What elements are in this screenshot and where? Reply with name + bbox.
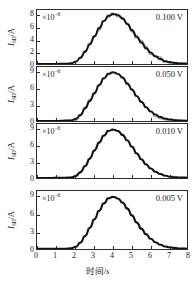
y-tick-label: 3 xyxy=(30,101,34,109)
y-tick-label: 6 xyxy=(30,210,34,218)
axis-multiplier-label: ×10−6 xyxy=(42,192,60,203)
chart-panel-2: ISD/A0369×10−60.050 V xyxy=(0,57,195,122)
axis-multiplier-label: ×10−6 xyxy=(42,68,60,79)
y-tick-label: 3 xyxy=(30,228,34,236)
plot-area-4: ×10−60.005 V xyxy=(36,190,188,250)
y-tick-label: 6 xyxy=(30,84,34,92)
x-tick-label: 3 xyxy=(91,252,95,260)
x-tick-label: 6 xyxy=(148,252,152,260)
x-tick-label: 2 xyxy=(72,252,76,260)
x-tick-label: 4 xyxy=(110,252,114,260)
y-axis-label: ISD/A xyxy=(6,28,16,46)
y-tick-label: 2 xyxy=(30,48,34,56)
x-tick-label: 1 xyxy=(53,252,57,260)
y-tick-labels: 0369 xyxy=(16,181,36,250)
y-tick-label: 8 xyxy=(30,10,34,18)
x-axis-unit: s xyxy=(106,266,109,276)
fitted-curve xyxy=(37,129,187,177)
y-tick-labels: 0369 xyxy=(16,57,36,122)
axis-multiplier-label: ×10−6 xyxy=(42,125,60,136)
y-tick-labels: 02468 xyxy=(16,0,36,65)
x-tick-label: 0 xyxy=(34,252,38,260)
x-axis: 012345678时间/s xyxy=(0,252,195,283)
y-tick-label: 3 xyxy=(30,158,34,166)
figure-root: ISD/A02468×10−60.100 VISD/A0369×10−60.05… xyxy=(0,0,195,283)
x-tick-label: 8 xyxy=(186,252,190,260)
y-tick-label: 4 xyxy=(30,36,34,44)
voltage-annotation: 0.005 V xyxy=(156,193,183,203)
y-axis-label: ISD/A xyxy=(6,142,16,160)
chart-panel-1: ISD/A02468×10−60.100 V xyxy=(0,0,195,65)
y-tick-label: 6 xyxy=(30,23,34,31)
fitted-curve xyxy=(37,197,187,249)
voltage-annotation: 0.050 V xyxy=(156,69,183,79)
x-axis-title-text: 时间 xyxy=(86,266,104,276)
y-tick-label: 6 xyxy=(30,141,34,149)
y-tick-label: 9 xyxy=(30,191,34,199)
y-axis-label: ISD/A xyxy=(6,85,16,103)
chart-panel-4: ISD/A0369×10−60.005 V xyxy=(0,181,195,250)
x-tick-label: 7 xyxy=(167,252,171,260)
y-axis-label: ISD/A xyxy=(6,211,16,229)
x-tick-label: 5 xyxy=(129,252,133,260)
voltage-annotation: 0.010 V xyxy=(156,126,183,136)
y-tick-label: 9 xyxy=(30,124,34,132)
voltage-annotation: 0.100 V xyxy=(156,12,183,22)
chart-panel-3: ISD/A0369×10−60.010 V xyxy=(0,114,195,179)
axis-multiplier-label: ×10−6 xyxy=(42,11,60,22)
plot-area-3: ×10−60.010 V xyxy=(36,123,188,179)
x-axis-title: 时间/s xyxy=(0,264,195,276)
y-tick-label: 9 xyxy=(30,67,34,75)
y-tick-labels: 0369 xyxy=(16,114,36,179)
